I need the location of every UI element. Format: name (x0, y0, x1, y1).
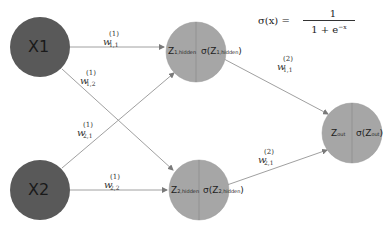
weight-sup: (1) (110, 174, 120, 181)
x1-label: X1 (28, 39, 49, 55)
formula-denominator-base: 1 + e (311, 24, 338, 35)
weight-w12-layer1: w (1) 1,2 (80, 76, 89, 86)
out-z-label: Zout (331, 129, 345, 138)
weight-w22-layer1: w (1) 2,2 (104, 180, 113, 190)
out-sigma-sub: out (371, 131, 379, 137)
weight-sub: 2,1 (264, 160, 274, 166)
weight-w21-layer1: w (1) 2,1 (77, 128, 86, 138)
h2-sigma-base: σ(Z (203, 185, 218, 195)
formula-denominator-exp: −x (338, 23, 346, 30)
weight-sup: (2) (264, 149, 274, 156)
weight-sub: 2,1 (83, 133, 93, 139)
h1-z-label: Z1,hidden (168, 47, 196, 56)
out-sigma-base: σ(Z (356, 128, 371, 138)
weight-w11-layer2: w (2) 1,1 (277, 62, 286, 72)
weight-w11-layer1: w (1) 1,1 (103, 37, 112, 47)
h1-z-sub: 1,hidden (174, 49, 196, 55)
weight-w21-layer2: w (2) 2,1 (258, 155, 267, 165)
weight-sup: (1) (109, 31, 119, 38)
h1-sigma-label: σ(Z1,hidden) (201, 47, 242, 56)
weight-sub: 1,1 (283, 67, 293, 73)
weight-sup: (1) (83, 122, 93, 129)
h1-sigma-close: ) (238, 46, 242, 56)
formula-fraction-bar (303, 20, 355, 21)
h2-sigma-close: ) (240, 185, 244, 195)
formula-denominator: 1 + e−x (303, 23, 355, 35)
h2-z-label: Z2,hidden (171, 186, 199, 195)
weight-sub: 2,2 (110, 185, 120, 191)
h1-sigma-sub: 1,hidden (216, 49, 238, 55)
h2-z-sub: 2,hidden (177, 188, 199, 194)
weight-sup: (2) (283, 56, 293, 63)
edge-h2-out (227, 150, 327, 185)
formula-lhs: σ(x) = (258, 15, 290, 26)
out-sigma-label: σ(Zout) (356, 129, 383, 138)
out-z-sub: out (337, 131, 345, 137)
x2-label: X2 (28, 182, 49, 198)
h2-sigma-label: σ(Z2,hidden) (203, 186, 244, 195)
edge-x1-h2 (62, 69, 173, 170)
formula-numerator: 1 (313, 8, 353, 19)
h2-sigma-sub: 2,hidden (218, 188, 240, 194)
weight-sub: 1,1 (109, 42, 119, 48)
out-sigma-close: ) (380, 128, 384, 138)
edge-x2-h1 (62, 73, 174, 168)
h1-sigma-base: σ(Z (201, 46, 216, 56)
weight-sub: 1,2 (86, 81, 96, 87)
weight-sup: (1) (86, 70, 96, 77)
edge-h1-out (224, 59, 328, 114)
